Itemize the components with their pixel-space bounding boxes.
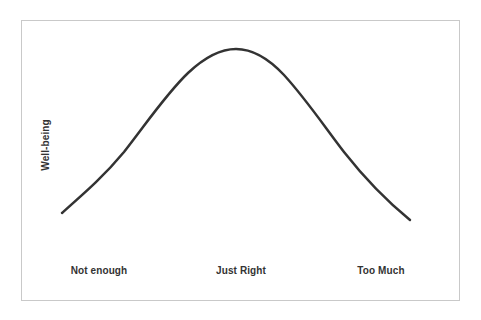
x-axis-label-just-right: Just Right xyxy=(216,265,266,276)
x-axis-label-not-enough: Not enough xyxy=(71,265,128,276)
x-axis-label-too-much: Too Much xyxy=(357,265,404,276)
wellbeing-curve-line xyxy=(62,49,410,220)
y-axis-label: Well-being xyxy=(40,119,51,170)
chart-figure: Well-being Not enough Just Right Too Muc… xyxy=(0,0,481,320)
